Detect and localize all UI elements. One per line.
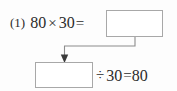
division-result: 80	[132, 67, 148, 85]
equation-row-division: ÷ 30 = 80	[94, 63, 148, 88]
multiplication-left-operand: 80	[30, 14, 46, 32]
answer-box-product[interactable]	[106, 10, 163, 37]
answer-box-dividend[interactable]	[35, 62, 93, 88]
division-right-operand: 30	[106, 67, 122, 85]
question-number-label: (1)	[10, 15, 25, 31]
equals-sign-row2: =	[123, 67, 131, 84]
equals-sign-row1: =	[76, 15, 84, 32]
equation-row-multiplication: (1) 80 × 30 =	[10, 11, 84, 35]
multiplication-sign-icon: ×	[48, 15, 56, 32]
math-worksheet-problem: (1) 80 × 30 = ÷ 30 = 80	[0, 0, 177, 91]
multiplication-right-operand: 30	[59, 14, 75, 32]
division-sign-icon: ÷	[96, 67, 104, 84]
